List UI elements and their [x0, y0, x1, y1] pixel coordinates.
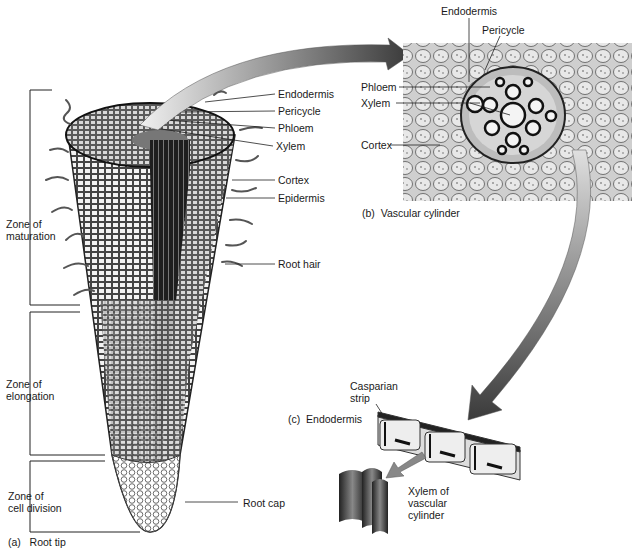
label-a-cortex: Cortex: [278, 174, 309, 186]
label-a-endodermis: Endodermis: [278, 88, 334, 100]
xylem-line1: Xylem of: [408, 485, 449, 497]
diagram-graphics: [0, 0, 639, 554]
label-b-cortex: Cortex: [361, 139, 392, 151]
zone-elongation-line1: Zone of: [6, 378, 54, 390]
zone-cell-division-label: Zone of cell division: [8, 490, 62, 514]
arrow-to-xylem: [386, 452, 426, 478]
vascular-cylinder-micrograph: [403, 43, 632, 201]
casparian-line1: Casparian: [350, 380, 398, 392]
panel-b-caption: (b) Vascular cylinder: [362, 207, 460, 219]
label-b-endodermis: Endodermis: [441, 5, 497, 17]
label-b-pericycle: Pericycle: [482, 24, 525, 36]
label-a-phloem: Phloem: [278, 122, 314, 134]
zone-cell-division-line2: cell division: [8, 502, 62, 514]
zone-elongation-line2: elongation: [6, 390, 54, 402]
panel-c-title: Endodermis: [306, 413, 362, 425]
panel-b-letter: (b): [362, 207, 375, 219]
panel-c-caption: (c) Endodermis: [288, 413, 362, 425]
label-a-pericycle: Pericycle: [278, 105, 321, 117]
zone-maturation-line2: maturation: [6, 230, 56, 242]
zone-elongation-label: Zone of elongation: [6, 378, 54, 402]
panel-a-caption: (a) Root tip: [8, 536, 66, 548]
zone-maturation-line1: Zone of: [6, 218, 56, 230]
root-tip-illustration: [46, 88, 262, 533]
panel-b-title: Vascular cylinder: [381, 207, 460, 219]
label-a-epidermis: Epidermis: [278, 192, 325, 204]
xylem-line3: cylinder: [408, 509, 449, 521]
zone-cell-division-line1: Zone of: [8, 490, 62, 502]
label-b-phloem: Phloem: [361, 81, 397, 93]
label-a-xylem: Xylem: [276, 140, 305, 152]
label-a-root-cap: Root cap: [243, 497, 285, 509]
panel-c-letter: (c): [288, 413, 300, 425]
xylem-line2: vascular: [408, 497, 449, 509]
label-a-root-hair: Root hair: [278, 258, 321, 270]
xylem-tubes: [339, 468, 388, 534]
casparian-line2: strip: [350, 392, 398, 404]
label-c-casparian-strip: Casparian strip: [350, 380, 398, 404]
label-c-xylem-of-vascular-cylinder: Xylem of vascular cylinder: [408, 485, 449, 521]
zone-maturation-label: Zone of maturation: [6, 218, 56, 242]
panel-a-letter: (a): [8, 536, 21, 548]
panel-a-title: Root tip: [30, 536, 66, 548]
label-b-xylem: Xylem: [361, 97, 390, 109]
